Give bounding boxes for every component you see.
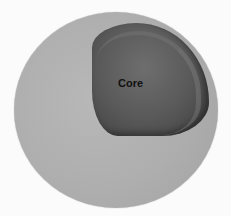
core-label: Core bbox=[118, 77, 143, 89]
